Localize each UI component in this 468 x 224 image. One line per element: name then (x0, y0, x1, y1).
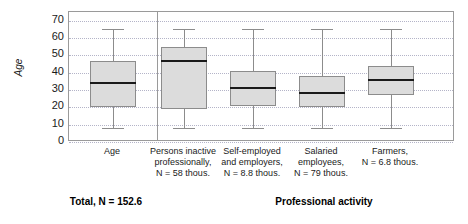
x-axis-label-line: N = 79 thous. (276, 168, 366, 179)
y-tick-label: 60 (40, 31, 64, 42)
whisker-cap-lower (173, 128, 195, 129)
whisker-cap-lower (242, 128, 264, 129)
median-line (230, 87, 276, 89)
box-plot-item (90, 12, 136, 140)
plot-area (68, 11, 454, 141)
y-tick-label: 40 (40, 66, 64, 77)
x-axis-label-line: Farmers, (345, 146, 435, 157)
y-tick-label: 30 (40, 83, 64, 94)
x-axis-label-line: N = 6.8 thous. (345, 157, 435, 168)
footer-total-label: Total, N = 152.6 (36, 196, 176, 207)
box-plot-item (368, 12, 414, 140)
median-line (299, 92, 345, 94)
whisker-cap-lower (311, 128, 333, 129)
whisker-cap-lower (102, 128, 124, 129)
gridline (69, 142, 453, 143)
y-axis-ticks: 010203040506070 (38, 0, 64, 224)
y-tick-label: 0 (40, 135, 64, 146)
y-tick-label: 20 (40, 100, 64, 111)
y-tick-label: 10 (40, 118, 64, 129)
median-line (161, 60, 207, 62)
y-tick-label: 70 (40, 14, 64, 25)
x-axis-label: Farmers,N = 6.8 thous. (345, 146, 435, 168)
median-line (368, 79, 414, 81)
box-plot-item (161, 12, 207, 140)
footer-group-label: Professional activity (214, 196, 434, 207)
x-axis-labels: AgePersons inactiveprofessionally,N = 58… (68, 146, 454, 190)
boxplot-chart: Age 010203040506070 AgePersons inactivep… (0, 0, 468, 224)
whisker-cap-upper (173, 29, 195, 30)
chart-footer: Total, N = 152.6 Professional activity (0, 196, 468, 220)
y-tick-label: 50 (40, 48, 64, 59)
box-plot-item (230, 12, 276, 140)
panel-separator (157, 12, 158, 140)
whisker-cap-upper (380, 29, 402, 30)
whisker-cap-upper (102, 29, 124, 30)
whisker-cap-upper (242, 29, 264, 30)
box-iqr-rect (161, 47, 207, 109)
y-axis-title: Age (13, 38, 24, 98)
median-line (90, 82, 136, 84)
whisker-cap-lower (380, 128, 402, 129)
whisker-cap-upper (311, 29, 333, 30)
box-plot-item (299, 12, 345, 140)
